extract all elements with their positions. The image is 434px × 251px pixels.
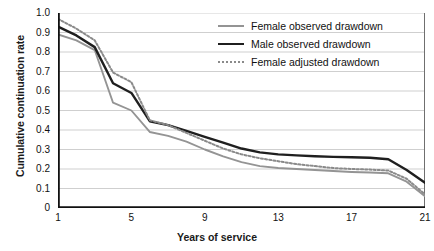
y-tick-label: 0.9 xyxy=(18,28,50,38)
x-tick-label: 13 xyxy=(265,212,291,223)
line-solid-black-icon xyxy=(218,39,244,49)
x-tick-label: 1 xyxy=(45,212,71,223)
y-tick-label: 0.6 xyxy=(18,86,50,96)
x-tick-label: 5 xyxy=(118,212,144,223)
y-tick-label: 0.3 xyxy=(18,145,50,155)
y-tick-label: 1.0 xyxy=(18,8,50,18)
x-axis-title: Years of service xyxy=(0,231,434,243)
y-tick-label: 0.2 xyxy=(18,164,50,174)
x-tick-label: 9 xyxy=(192,212,218,223)
legend-label: Male observed drawdown xyxy=(251,38,371,50)
y-tick-label: 0.4 xyxy=(18,125,50,135)
y-tick-label: 0.5 xyxy=(18,106,50,116)
x-tick-label: 21 xyxy=(412,212,434,223)
y-tick-label: 0.7 xyxy=(18,67,50,77)
chart-figure: Cumulative continuation rate 00.10.20.30… xyxy=(0,0,434,251)
legend-item-male-observed: Male observed drawdown xyxy=(218,36,423,52)
legend-item-female-adjusted: Female adjusted drawdown xyxy=(218,54,423,70)
legend-label: Female adjusted drawdown xyxy=(251,56,379,68)
legend-item-female-observed: Female observed drawdown xyxy=(218,18,423,34)
line-solid-gray-icon xyxy=(218,21,244,31)
legend-label: Female observed drawdown xyxy=(251,20,383,32)
chart-legend: Female observed drawdown Male observed d… xyxy=(218,18,423,72)
y-tick-label: 0.1 xyxy=(18,184,50,194)
x-tick-label: 17 xyxy=(339,212,365,223)
y-tick-label: 0.8 xyxy=(18,47,50,57)
line-dotted-gray-icon xyxy=(218,57,244,67)
